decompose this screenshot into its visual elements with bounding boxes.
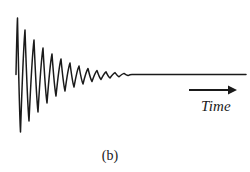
time-axis-label: Time: [185, 97, 247, 115]
right-arrow-icon: [185, 84, 247, 96]
figure-caption: (b): [82, 147, 138, 164]
damped-oscillation-figure: Time (b): [0, 0, 250, 172]
time-axis-label-group: Time: [185, 84, 247, 116]
